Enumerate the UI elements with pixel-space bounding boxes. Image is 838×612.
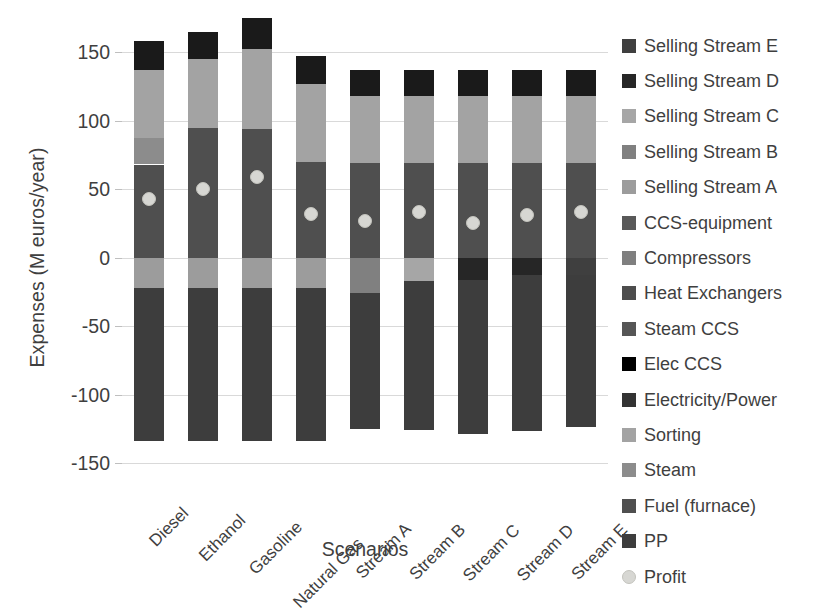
legend-item[interactable]: Compressors [622, 240, 838, 275]
x-axis-title: Scenarios [122, 538, 608, 561]
y-axis-tick-label: 150 [48, 41, 110, 64]
bar-segment[interactable] [404, 96, 434, 163]
legend-item[interactable]: Fuel (furnace) [622, 488, 838, 523]
gridline [122, 463, 608, 464]
legend-swatch-icon [622, 322, 636, 336]
legend-swatch-icon [622, 357, 636, 371]
bar-segment[interactable] [134, 288, 164, 441]
legend-item[interactable]: PP [622, 523, 838, 558]
bar-segment[interactable] [566, 96, 596, 163]
bar-segment[interactable] [242, 49, 272, 128]
profit-marker-dot[interactable] [520, 208, 534, 222]
bar-segment[interactable] [242, 129, 272, 258]
bar-segment[interactable] [512, 70, 542, 96]
bar-column[interactable] [566, 18, 596, 463]
bar-segment[interactable] [350, 293, 380, 429]
legend-item[interactable]: Steam CCS [622, 311, 838, 346]
legend-item[interactable]: Heat Exchangers [622, 276, 838, 311]
profit-marker-dot[interactable] [466, 216, 480, 230]
bar-segment[interactable] [458, 280, 488, 435]
legend-item[interactable]: Electricity/Power [622, 382, 838, 417]
bar-segment[interactable] [350, 258, 380, 294]
bar-segment[interactable] [512, 96, 542, 163]
bar-segment[interactable] [458, 70, 488, 96]
bar-segment[interactable] [188, 258, 218, 288]
legend-item[interactable]: Selling Stream E [622, 28, 838, 63]
bar-segment[interactable] [188, 288, 218, 441]
bar-segment[interactable] [296, 258, 326, 288]
bar-column[interactable] [242, 18, 272, 463]
legend-swatch-icon [622, 109, 636, 123]
bar-segment[interactable] [296, 288, 326, 441]
bar-segment[interactable] [458, 96, 488, 163]
legend-item[interactable]: Selling Stream D [622, 63, 838, 98]
bar-segment[interactable] [512, 258, 542, 276]
bar-segment[interactable] [188, 32, 218, 59]
y-axis-tick-label: 50 [48, 178, 110, 201]
legend-label: Fuel (furnace) [644, 497, 756, 515]
legend-swatch-icon [622, 499, 636, 513]
bar-segment[interactable] [134, 138, 164, 164]
bar-column[interactable] [512, 18, 542, 463]
bar-segment[interactable] [134, 41, 164, 70]
legend-item[interactable]: Profit [622, 559, 838, 594]
profit-marker-dot[interactable] [304, 207, 318, 221]
legend-item[interactable]: CCS-equipment [622, 205, 838, 240]
bar-segment[interactable] [404, 70, 434, 96]
bar-segment[interactable] [242, 258, 272, 288]
bar-segment[interactable] [188, 59, 218, 127]
bar-segment[interactable] [242, 288, 272, 441]
bar-segment[interactable] [404, 258, 434, 281]
legend-label: Selling Stream D [644, 72, 779, 90]
bar-segment[interactable] [134, 165, 164, 258]
legend-label: Selling Stream A [644, 178, 777, 196]
bar-segment[interactable] [566, 258, 596, 276]
legend-item[interactable]: Sorting [622, 417, 838, 452]
legend-label: PP [644, 532, 668, 550]
profit-marker-dot[interactable] [412, 205, 426, 219]
bar-segment[interactable] [350, 163, 380, 257]
legend-item[interactable]: Selling Stream C [622, 99, 838, 134]
bar-segment[interactable] [566, 275, 596, 427]
bar-segment[interactable] [458, 163, 488, 257]
legend-item[interactable]: Selling Stream A [622, 170, 838, 205]
legend-swatch-icon [622, 428, 636, 442]
bar-segment[interactable] [350, 96, 380, 163]
bar-segment[interactable] [134, 70, 164, 138]
bar-segment[interactable] [512, 275, 542, 431]
y-axis-tickmark [115, 121, 122, 122]
legend-item[interactable]: Elec CCS [622, 347, 838, 382]
legend-swatch-icon [622, 534, 636, 548]
profit-marker-dot[interactable] [574, 205, 588, 219]
bar-column[interactable] [296, 18, 326, 463]
bar-column[interactable] [350, 18, 380, 463]
legend-label: Steam CCS [644, 320, 739, 338]
legend-label: Electricity/Power [644, 391, 777, 409]
legend-item[interactable]: Selling Stream B [622, 134, 838, 169]
bar-segment[interactable] [458, 258, 488, 280]
bar-segment[interactable] [566, 70, 596, 96]
bar-segment[interactable] [350, 70, 380, 96]
bar-segment[interactable] [134, 258, 164, 288]
bar-segment[interactable] [404, 281, 434, 430]
legend-item[interactable]: Steam [622, 453, 838, 488]
bar-column[interactable] [134, 18, 164, 463]
bar-segment[interactable] [296, 84, 326, 162]
bar-column[interactable] [458, 18, 488, 463]
legend-swatch-icon [622, 145, 636, 159]
legend-swatch-icon [622, 393, 636, 407]
bar-segment[interactable] [242, 18, 272, 49]
y-axis-tickmark [115, 52, 122, 53]
profit-marker-dot[interactable] [196, 182, 210, 196]
profit-marker-dot[interactable] [358, 214, 372, 228]
legend-label: Steam [644, 461, 696, 479]
profit-marker-dot[interactable] [250, 170, 264, 184]
bar-segment[interactable] [296, 56, 326, 83]
bar-column[interactable] [188, 18, 218, 463]
profit-marker-dot[interactable] [142, 192, 156, 206]
legend-swatch-icon [622, 39, 636, 53]
bar-column[interactable] [404, 18, 434, 463]
legend-label: Selling Stream B [644, 143, 778, 161]
y-axis-title: Expenses (M euros/year) [26, 93, 49, 423]
